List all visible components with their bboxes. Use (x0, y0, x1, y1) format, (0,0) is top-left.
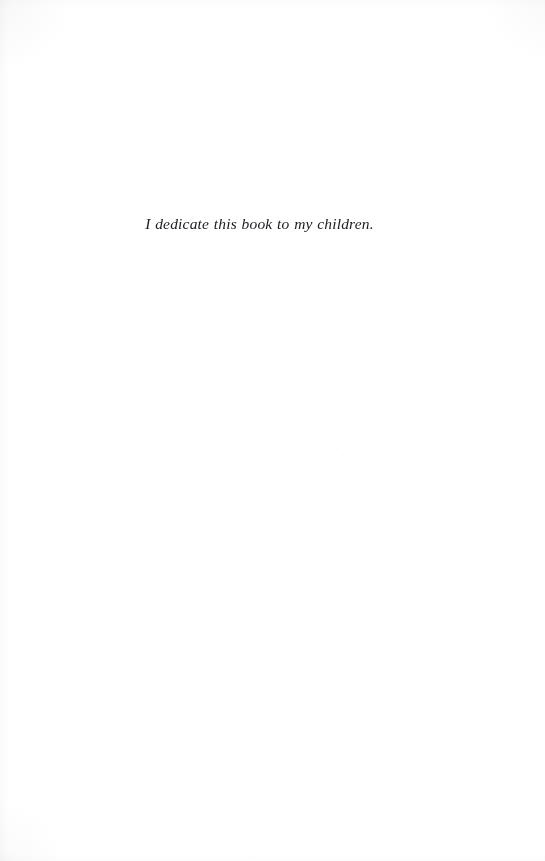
scan-speckle-noise (0, 0, 545, 861)
scan-edge-shading (0, 0, 545, 861)
dedication-text: I dedicate this book to my children. (145, 214, 374, 233)
dedication-block: I dedicate this book to my children. (0, 214, 545, 233)
document-page: I dedicate this book to my children. (0, 0, 545, 861)
